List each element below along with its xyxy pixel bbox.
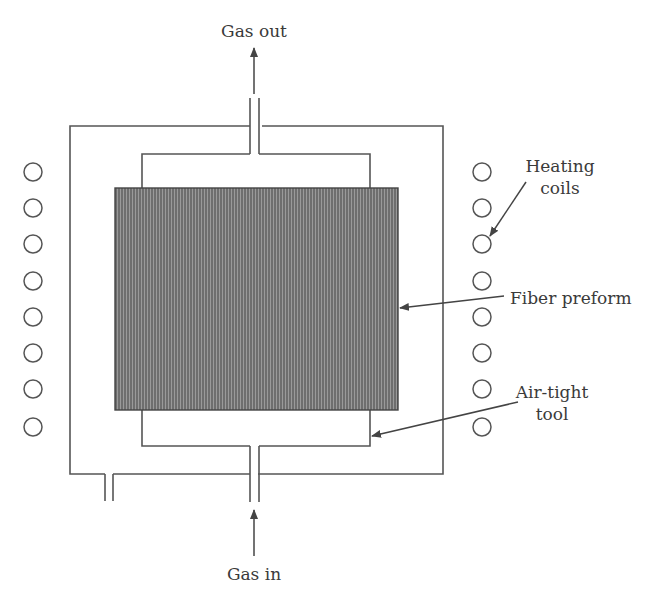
heating-coil-left-4 — [24, 272, 42, 290]
gas-in-pipe — [250, 446, 259, 502]
heating-coil-left-5 — [24, 308, 42, 326]
heating-coil-left-7 — [24, 380, 42, 398]
heating-coil-right-7 — [473, 380, 491, 398]
heating-coil-left-1 — [24, 163, 42, 181]
heating-coil-right-2 — [473, 199, 491, 217]
heating-coils-label: Heating coils — [520, 155, 600, 199]
heating-coils-label-line1: Heating — [520, 155, 600, 177]
heating-coil-right-1 — [473, 163, 491, 181]
heating-coil-right-4 — [473, 272, 491, 290]
heating-coil-left-6 — [24, 344, 42, 362]
heating-coil-left-8 — [24, 418, 42, 436]
heating-coil-right-8 — [473, 418, 491, 436]
heating-coils-label-line2: coils — [520, 177, 600, 199]
fiber-preform-label: Fiber preform — [510, 287, 632, 309]
fiber-preform-pointer-arrow — [400, 296, 504, 308]
air-tight-tool-label-line1: Air-tight — [510, 381, 594, 403]
air-tight-tool-label-line2: tool — [510, 403, 594, 425]
gas-in-label: Gas in — [214, 563, 294, 585]
heating-coil-right-6 — [473, 344, 491, 362]
heating-coils-left — [24, 163, 42, 436]
heating-coil-right-3 — [473, 235, 491, 253]
fiber-preform — [115, 188, 398, 410]
air-tight-tool-label: Air-tight tool — [510, 381, 594, 425]
gas-out-pipe — [250, 98, 259, 154]
heating-coil-right-5 — [473, 308, 491, 326]
gas-out-label: Gas out — [214, 20, 294, 42]
heating-coil-left-3 — [24, 235, 42, 253]
heating-coil-left-2 — [24, 199, 42, 217]
exhaust-pipe — [105, 474, 113, 501]
